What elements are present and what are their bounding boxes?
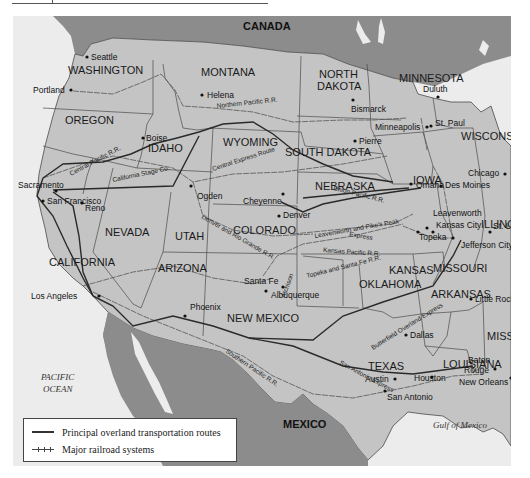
city-baton-label-1: Baton: [468, 355, 490, 365]
city-albuquerque: Albuquerque: [271, 290, 319, 300]
country-label-mexico: MEXICO: [283, 418, 327, 430]
city-helena: Helena: [207, 90, 234, 100]
state-texas: TEXAS: [368, 360, 404, 372]
state-oregon: OREGON: [65, 114, 114, 126]
top-rule-tick: [52, 0, 53, 4]
water-label-pacific: PACIFIC: [40, 372, 75, 382]
legend-item-railroads: Major railroad systems: [24, 442, 154, 456]
city-los-angeles: Los Angeles: [31, 291, 77, 301]
state-washington: WASHINGTON: [68, 64, 143, 76]
city-little-rock: Little Rock: [475, 294, 511, 304]
state-montana: MONTANA: [201, 66, 256, 78]
map-frame: CANADA MEXICO PACIFIC OCEAN Gulf of Mexi…: [13, 16, 511, 466]
city-st-paul: St. Paul: [435, 118, 465, 128]
state-wisconsin: WISCONSIN: [461, 130, 511, 142]
state-oklahoma-label: OKLAHOMA: [359, 278, 422, 290]
city-sacramento: Sacramento: [18, 180, 64, 190]
state-south-dakota: SOUTH DAKOTA: [285, 146, 372, 158]
state-idaho: IDAHO: [148, 142, 183, 154]
us-map-svg: CANADA MEXICO PACIFIC OCEAN Gulf of Mexi…: [13, 16, 511, 466]
state-minnesota: MINNESOTA: [399, 72, 464, 84]
state-arizona: ARIZONA: [158, 262, 208, 274]
city-chicago: Chicago: [468, 168, 499, 178]
map-legend: Principal overland transportation routes…: [23, 418, 237, 462]
water-label-gulf: Gulf of Mexico: [433, 420, 487, 430]
city-duluth: Duluth: [423, 84, 448, 94]
state-north-label-1: NORTH: [319, 68, 358, 80]
state-nevada: NEVADA: [105, 226, 150, 238]
legend-label-railroads: Major railroad systems: [62, 444, 154, 455]
city-ogden: Ogden: [197, 191, 223, 201]
country-label-canada: CANADA: [243, 20, 291, 32]
city-new-orleans: New Orleans: [459, 377, 508, 387]
city-des-moines: Des Moines: [445, 180, 490, 190]
city-st-louis: St. Louis: [493, 221, 511, 231]
city-dallas: Dallas: [410, 330, 434, 340]
city-leavenworth: Leavenworth: [433, 208, 482, 218]
city-jefferson-city: Jefferson City: [461, 240, 511, 250]
state-mississippi: MISS.: [487, 330, 511, 342]
legend-label-routes: Principal overland transportation routes: [62, 427, 221, 438]
city-denver: Denver: [283, 210, 311, 220]
state-california: CALIFORNIA: [49, 256, 116, 268]
city-houston: Houston: [414, 373, 446, 383]
water-label-ocean: OCEAN: [43, 384, 73, 394]
city-phoenix: Phoenix: [190, 302, 221, 312]
legend-item-routes: Principal overland transportation routes: [24, 425, 221, 439]
city-pierre: Pierre: [359, 136, 382, 146]
state-kansas: KANSAS: [389, 264, 434, 276]
state-north-dakota-label-2: DAKOTA: [317, 80, 362, 92]
state-new-mexico: NEW MEXICO: [227, 312, 300, 324]
city-topeka: Topeka: [419, 232, 447, 242]
city-bismarck: Bismarck: [351, 104, 387, 114]
state-missouri: MISSOURI: [433, 262, 487, 274]
top-rule: [12, 0, 268, 4]
city-minneapolis: Minneapolis: [375, 122, 420, 132]
state-utah: UTAH: [175, 230, 204, 242]
city-boise: Boise: [146, 133, 168, 143]
city-seattle: Seattle: [91, 52, 118, 62]
city-portland: Portland: [33, 85, 65, 95]
city-san-antonio: San Antonio: [387, 392, 433, 402]
city-santa-fe: Santa Fe: [244, 276, 279, 286]
city-kansas-city: Kansas City: [436, 220, 482, 230]
city-reno: Reno: [85, 203, 106, 213]
railroad-tick-line-icon: [32, 445, 54, 453]
city-cheyenne: Cheyenne: [243, 196, 282, 206]
city-rouge-label-2: Rouge: [464, 365, 489, 375]
solid-line-icon: [32, 428, 54, 436]
